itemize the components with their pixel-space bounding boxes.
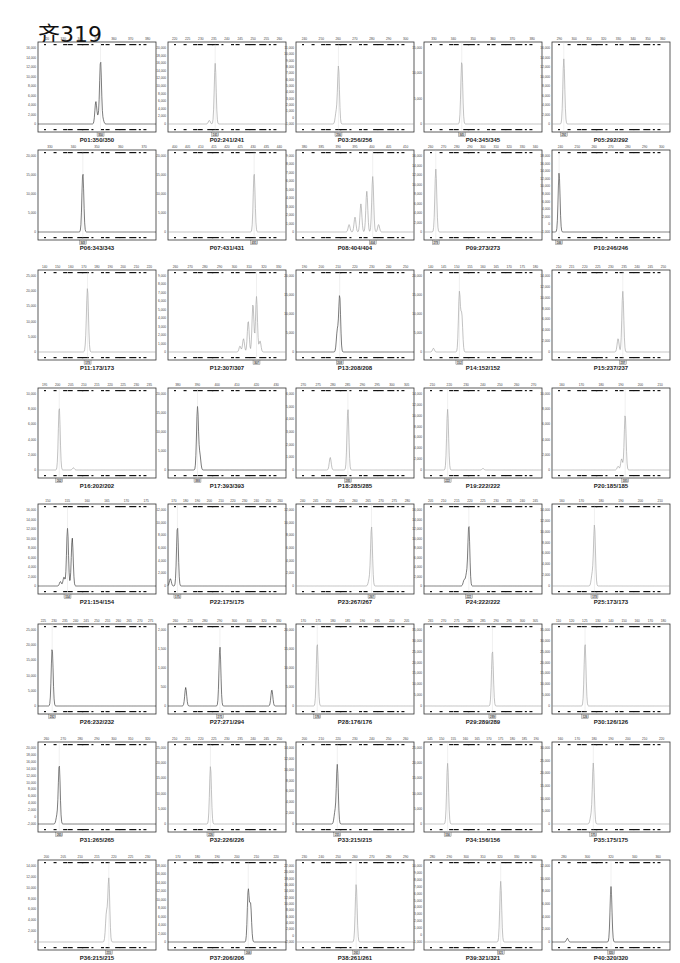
svg-text:230: 230 <box>224 737 230 741</box>
svg-text:0: 0 <box>420 933 422 937</box>
svg-text:10,000: 10,000 <box>26 674 36 678</box>
svg-text:170: 170 <box>124 499 130 503</box>
svg-text:12,000: 12,000 <box>284 508 294 512</box>
svg-text:160: 160 <box>635 619 641 623</box>
svg-text:200: 200 <box>121 265 127 269</box>
svg-text:220: 220 <box>582 265 588 269</box>
svg-text:310: 310 <box>586 37 592 41</box>
svg-text:6,000: 6,000 <box>158 546 166 550</box>
svg-text:0: 0 <box>292 934 294 938</box>
svg-text:9,000: 9,000 <box>286 154 294 158</box>
svg-text:8,000: 8,000 <box>158 906 166 910</box>
svg-text:30,000: 30,000 <box>540 746 550 750</box>
svg-text:0: 0 <box>292 468 294 472</box>
svg-text:6,000: 6,000 <box>28 422 36 426</box>
svg-text:2,000: 2,000 <box>28 453 36 457</box>
svg-text:425: 425 <box>237 145 243 149</box>
svg-text:290: 290 <box>217 619 223 623</box>
svg-text:1,000: 1,000 <box>158 666 166 670</box>
svg-text:10,000: 10,000 <box>156 521 166 525</box>
svg-text:206: 206 <box>246 951 251 955</box>
svg-text:0: 0 <box>164 468 166 472</box>
svg-text:225: 225 <box>480 499 486 503</box>
svg-text:222: 222 <box>445 479 450 483</box>
svg-text:160: 160 <box>558 737 564 741</box>
panel-p23: 24024525025526026527027528002,0004,0006,… <box>278 496 416 608</box>
svg-text:4,000: 4,000 <box>158 923 166 927</box>
svg-text:260: 260 <box>428 145 434 149</box>
svg-text:220: 220 <box>172 37 178 41</box>
svg-text:4,000: 4,000 <box>414 905 422 909</box>
panel-label: P15:237/237 <box>594 365 628 371</box>
svg-text:20,000: 20,000 <box>156 761 166 765</box>
svg-text:16,000: 16,000 <box>26 760 36 764</box>
svg-text:150: 150 <box>45 499 51 503</box>
svg-text:4,000: 4,000 <box>542 915 550 919</box>
svg-text:4,000: 4,000 <box>542 207 550 211</box>
svg-text:420: 420 <box>254 383 260 387</box>
svg-text:3,000: 3,000 <box>414 912 422 916</box>
svg-text:200: 200 <box>638 499 644 503</box>
svg-text:250: 250 <box>319 37 325 41</box>
svg-text:350: 350 <box>645 37 651 41</box>
panel-label: P39:321/321 <box>466 955 500 961</box>
svg-text:4,000: 4,000 <box>542 562 550 566</box>
svg-text:220: 220 <box>230 499 236 503</box>
svg-text:8,000: 8,000 <box>28 787 36 791</box>
panel-label: P35:175/175 <box>594 837 628 843</box>
svg-text:8,000: 8,000 <box>286 65 294 69</box>
svg-text:405: 405 <box>386 145 392 149</box>
svg-text:0: 0 <box>420 468 422 472</box>
panel-p17: 38039040041042043005,00010,00015,00020,0… <box>150 380 288 492</box>
svg-text:16,000: 16,000 <box>26 46 36 50</box>
svg-text:175: 175 <box>144 499 150 503</box>
svg-text:2,000: 2,000 <box>286 103 294 107</box>
svg-text:170: 170 <box>575 737 581 741</box>
svg-text:8,000: 8,000 <box>286 908 294 912</box>
svg-text:18,000: 18,000 <box>540 154 550 158</box>
svg-text:10,000: 10,000 <box>156 84 166 88</box>
svg-text:10,000: 10,000 <box>412 682 422 686</box>
svg-text:320: 320 <box>261 619 267 623</box>
svg-text:10,000: 10,000 <box>156 192 166 196</box>
svg-text:215: 215 <box>454 499 460 503</box>
svg-text:320: 320 <box>507 145 513 149</box>
svg-text:4,000: 4,000 <box>286 90 294 94</box>
panel-label: P24:222/222 <box>466 599 500 605</box>
svg-text:260: 260 <box>173 265 179 269</box>
svg-text:20,000: 20,000 <box>412 661 422 665</box>
svg-text:4,000: 4,000 <box>158 107 166 111</box>
svg-text:12,000: 12,000 <box>540 519 550 523</box>
svg-text:160: 160 <box>85 499 91 503</box>
svg-text:290: 290 <box>493 619 499 623</box>
svg-text:0: 0 <box>292 230 294 234</box>
panel-label: P09:273/273 <box>466 245 500 251</box>
svg-text:4,000: 4,000 <box>286 800 294 804</box>
svg-text:14,000: 14,000 <box>540 169 550 173</box>
svg-text:215: 215 <box>94 383 100 387</box>
svg-text:4,000: 4,000 <box>542 438 550 442</box>
panel-label: P14:152/152 <box>466 365 500 371</box>
svg-text:10,000: 10,000 <box>412 537 422 541</box>
panel-label: P21:154/154 <box>80 599 114 605</box>
svg-text:20,000: 20,000 <box>412 761 422 765</box>
svg-text:160: 160 <box>68 265 74 269</box>
svg-text:5,000: 5,000 <box>286 84 294 88</box>
panel-p35: 16017018019020021022005,00010,00015,0002… <box>534 734 672 846</box>
svg-text:210: 210 <box>319 737 325 741</box>
svg-text:210: 210 <box>218 499 224 503</box>
panel-p10: 240250260270280290300-1,00002,0004,0006,… <box>534 142 672 254</box>
svg-text:210: 210 <box>642 737 648 741</box>
panel-p05: 29030031032033034035036002,0004,0006,000… <box>534 34 672 146</box>
svg-text:275: 275 <box>454 619 460 623</box>
svg-text:250: 250 <box>251 37 257 41</box>
svg-text:4,000: 4,000 <box>542 328 550 332</box>
svg-text:330: 330 <box>431 37 437 41</box>
svg-text:5,000: 5,000 <box>28 211 36 215</box>
panel-label: P22:175/175 <box>210 599 244 605</box>
svg-text:5,000: 5,000 <box>286 331 294 335</box>
panel-p38: 230240250260270280290-2,00002,0004,0006,… <box>278 852 416 963</box>
svg-text:6,000: 6,000 <box>286 915 294 919</box>
svg-text:0: 0 <box>292 704 294 708</box>
svg-text:200: 200 <box>207 499 213 503</box>
